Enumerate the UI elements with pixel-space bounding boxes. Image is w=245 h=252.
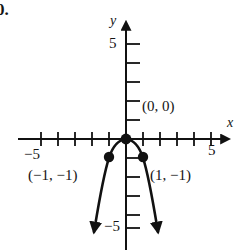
y-axis-label: y [110, 14, 116, 28]
coordinate-plane [0, 0, 245, 252]
point-label-right: (1, −1) [150, 168, 191, 183]
x-axis-tick-label-5: 5 [208, 143, 216, 158]
parabola-figure: 0. y x 5 −5 −5 5 (0, 0) (−1, −1) (1, −1) [0, 0, 245, 252]
point-label-left: (−1, −1) [28, 168, 77, 183]
x-axis-label: x [227, 116, 233, 130]
plot-point-left [104, 152, 114, 162]
plot-point-vertex [121, 134, 132, 145]
plot-point-right [138, 152, 148, 162]
y-axis-tick-label-neg5: −5 [104, 219, 120, 234]
point-label-origin: (0, 0) [142, 99, 175, 114]
x-axis-tick-label-neg5: −5 [24, 147, 40, 162]
problem-number: 0. [0, 1, 9, 18]
y-axis-tick-label-5: 5 [109, 36, 117, 51]
